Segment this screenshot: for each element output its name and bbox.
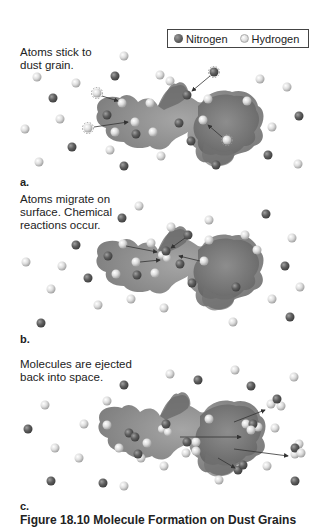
panel-b-label: b. xyxy=(20,333,30,345)
panel-a-label: a. xyxy=(20,176,29,188)
caption-line: Atoms stick to xyxy=(20,46,92,59)
panel-b: Atoms migrate on surface. Chemical react… xyxy=(0,190,323,350)
caption-line: Molecules are ejected xyxy=(20,358,132,371)
panel-c-caption: Molecules are ejected back into space. xyxy=(20,358,132,384)
caption-line: surface. Chemical xyxy=(20,206,112,219)
legend-label: Hydrogen xyxy=(252,33,300,45)
hydrogen-atom-icon xyxy=(240,34,249,43)
panel-b-caption: Atoms migrate on surface. Chemical react… xyxy=(20,193,112,232)
figure-caption: Figure 18.10 Molecule Formation on Dust … xyxy=(20,513,296,527)
panel-a-caption: Atoms stick to dust grain. xyxy=(20,46,92,72)
caption-line: dust grain. xyxy=(20,59,92,72)
legend-label: Nitrogen xyxy=(186,33,228,45)
legend-item-hydrogen: Hydrogen xyxy=(240,33,300,45)
nitrogen-atom-icon xyxy=(174,34,183,43)
panel-a: Atoms stick to dust grain. Nitrogen Hydr… xyxy=(0,0,323,190)
panel-c-label: c. xyxy=(20,500,29,512)
caption-line: back into space. xyxy=(20,371,132,384)
legend: Nitrogen Hydrogen xyxy=(167,29,309,48)
legend-item-nitrogen: Nitrogen xyxy=(174,33,228,45)
panel-c: Molecules are ejected back into space. c… xyxy=(0,350,323,513)
caption-line: reactions occur. xyxy=(20,219,112,232)
caption-line: Atoms migrate on xyxy=(20,193,112,206)
